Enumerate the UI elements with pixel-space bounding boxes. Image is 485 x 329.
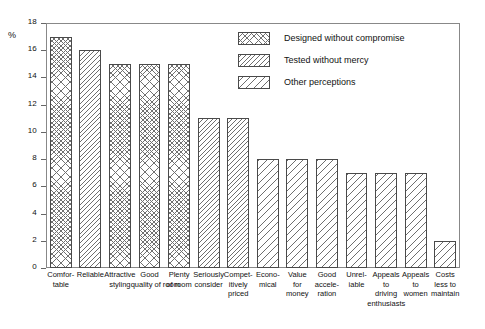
x-axis-label-line: priced	[219, 289, 257, 299]
y-axis-tick-label: 6	[32, 180, 37, 189]
y-axis-tick-label: 12	[28, 99, 37, 108]
bar-slot	[405, 23, 427, 268]
legend-swatch	[238, 54, 270, 67]
bar[interactable]	[286, 159, 308, 268]
x-axis-label: Costsless tomaintain	[426, 270, 464, 299]
legend-swatch	[238, 76, 270, 89]
legend-label: Tested without mercy	[284, 55, 369, 65]
legend-label: Designed without compromise	[284, 33, 405, 43]
bar[interactable]	[198, 118, 220, 268]
bar[interactable]	[375, 173, 397, 268]
legend-item[interactable]: Tested without mercy	[238, 49, 405, 71]
bar-slot	[109, 23, 131, 268]
bar-chart: % 024681012141618 Comfor-tableReliableAt…	[0, 0, 485, 329]
bar[interactable]	[168, 64, 190, 268]
y-axis-tick-label: 16	[28, 44, 37, 53]
legend-label: Other perceptions	[284, 77, 356, 87]
y-axis-tick-label: 8	[32, 153, 37, 162]
y-axis-tick-label: 18	[28, 17, 37, 26]
bar[interactable]	[79, 50, 101, 268]
x-axis-label-line: ration	[308, 289, 346, 299]
bar[interactable]	[50, 37, 72, 268]
bar[interactable]	[434, 241, 456, 268]
y-axis-tick-mark	[41, 268, 46, 269]
bar[interactable]	[346, 173, 368, 268]
chart-legend: Designed without compromiseTested withou…	[238, 27, 405, 93]
bar-slot	[139, 23, 161, 268]
bar[interactable]	[139, 64, 161, 268]
y-axis-tick-label: 4	[32, 208, 37, 217]
legend-swatch	[238, 32, 270, 45]
bar-slot	[79, 23, 101, 268]
x-axis-label-line: less to	[426, 280, 464, 290]
legend-item[interactable]: Designed without compromise	[238, 27, 405, 49]
y-axis-tick-label: 2	[32, 235, 37, 244]
y-axis-tick-label: 14	[28, 71, 37, 80]
x-axis-labels: Comfor-tableReliableAttractivestylingGoo…	[46, 270, 460, 329]
bar-slot	[434, 23, 456, 268]
legend-item[interactable]: Other perceptions	[238, 71, 405, 93]
bar[interactable]	[405, 173, 427, 268]
bar[interactable]	[227, 118, 249, 268]
y-axis-tick-label: 10	[28, 126, 37, 135]
bar-slot	[50, 23, 72, 268]
bar-slot	[198, 23, 220, 268]
y-axis: 024681012141618	[0, 23, 46, 268]
bar-slot	[168, 23, 190, 268]
bar[interactable]	[316, 159, 338, 268]
bar[interactable]	[257, 159, 279, 268]
x-axis-label-line: maintain	[426, 289, 464, 299]
x-axis-label-line: table	[42, 280, 80, 290]
bar[interactable]	[109, 64, 131, 268]
x-axis-label-line: enthusiasts	[367, 299, 405, 309]
y-axis-tick-label: 0	[32, 262, 37, 271]
x-axis-label-line: Costs	[426, 270, 464, 280]
